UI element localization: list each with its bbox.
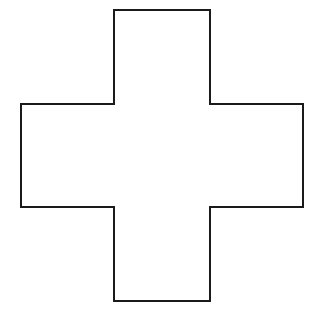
cross-shape-figure [0, 0, 324, 316]
drawing-canvas [0, 0, 324, 316]
